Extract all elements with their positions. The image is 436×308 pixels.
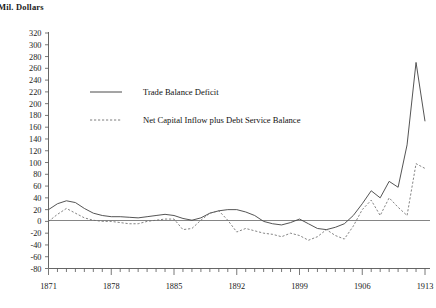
chart-container: Mil. Dollars -80-60-40-20020406080100120…: [0, 0, 436, 308]
y-tick-label: 120: [29, 147, 41, 156]
y-tick-label: -60: [30, 253, 41, 262]
y-tick-label: 300: [29, 41, 41, 50]
y-tick-label: -80: [30, 265, 41, 274]
y-tick-label: 320: [29, 29, 41, 38]
y-tick-label: 40: [33, 194, 41, 203]
legend-label-net-capital-inflow: Net Capital Inflow plus Debt Service Bal…: [143, 115, 301, 125]
y-tick-label: 280: [29, 53, 41, 62]
y-tick-label: 160: [29, 123, 41, 132]
y-tick-label: 0: [37, 217, 41, 226]
y-tick-label: 80: [33, 170, 41, 179]
y-tick-label: -40: [30, 241, 41, 250]
x-tick-label: 1878: [103, 282, 120, 291]
y-tick-label: 20: [33, 206, 41, 215]
y-tick-label: 140: [29, 135, 41, 144]
x-tick-label: 1871: [40, 282, 57, 291]
x-tick-label: 1913: [417, 282, 434, 291]
x-axis-ticks: 1871187818851892189919061913: [40, 269, 433, 291]
legend-label-trade-balance-deficit: Trade Balance Deficit: [143, 87, 219, 97]
series-trade-balance-deficit: [49, 62, 426, 229]
line-chart: -80-60-40-200204060801001201401601802002…: [0, 0, 436, 308]
y-axis-ticks: -80-60-40-200204060801001201401601802002…: [29, 29, 48, 274]
series-net-capital-inflow: [49, 164, 426, 241]
y-tick-label: 180: [29, 111, 41, 120]
y-tick-label: -20: [30, 229, 41, 238]
y-tick-label: 240: [29, 76, 41, 85]
x-tick-label: 1892: [228, 282, 245, 291]
x-tick-label: 1906: [354, 282, 371, 291]
legend: Trade Balance Deficit Net Capital Inflow…: [90, 87, 301, 125]
y-tick-label: 200: [29, 100, 41, 109]
x-tick-label: 1899: [291, 282, 308, 291]
y-tick-label: 220: [29, 88, 41, 97]
y-tick-label: 100: [29, 159, 41, 168]
y-tick-label: 260: [29, 64, 41, 73]
x-tick-label: 1885: [166, 282, 183, 291]
y-tick-label: 60: [33, 182, 41, 191]
